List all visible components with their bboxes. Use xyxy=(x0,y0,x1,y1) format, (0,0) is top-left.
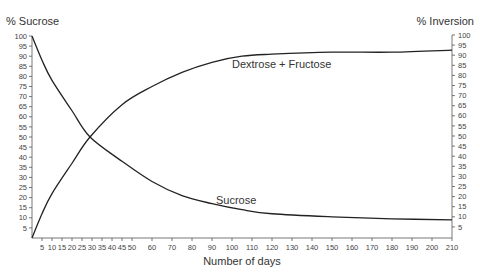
left-y-tick-label: 45 xyxy=(19,143,27,152)
x-tick-label: 100 xyxy=(226,243,239,252)
x-tick-label: 15 xyxy=(58,243,66,252)
x-tick-label: 190 xyxy=(406,243,419,252)
left-y-tick-label: 30 xyxy=(19,173,27,182)
left-y-tick-label: 25 xyxy=(19,183,27,192)
left-y-tick-label: 50 xyxy=(19,133,27,142)
x-axis-title: Number of days xyxy=(203,255,281,267)
x-tick-label: 160 xyxy=(346,243,359,252)
x-tick-label: 30 xyxy=(88,243,96,252)
right-y-tick-label: 85 xyxy=(458,61,466,70)
left-y-tick-label: 65 xyxy=(19,102,27,111)
x-tick-label: 80 xyxy=(188,243,196,252)
right-y-tick-label: 80 xyxy=(458,71,466,80)
x-tick-label: 40 xyxy=(108,243,116,252)
left-y-tick-label: 85 xyxy=(19,62,27,71)
left-y-tick-label: 90 xyxy=(19,52,27,61)
series-labels: Dextrose + FructoseSucrose xyxy=(216,58,331,205)
x-tick-label: 20 xyxy=(68,243,76,252)
left-y-tick-label: 20 xyxy=(19,193,27,202)
right-y-tick-label: 95 xyxy=(458,41,466,50)
right-y-tick-label: 40 xyxy=(458,152,466,161)
right-y-tick-label: 100 xyxy=(458,31,471,40)
x-tick-label: 5 xyxy=(40,243,44,252)
x-tick-label: 25 xyxy=(78,243,86,252)
right-y-tick-label: 5 xyxy=(458,223,462,232)
left-y-tick-label: 5 xyxy=(23,224,27,233)
x-tick-label: 50 xyxy=(128,243,136,252)
left-y-tick-label: 15 xyxy=(19,203,27,212)
x-tick-label: 90 xyxy=(208,243,216,252)
x-tick-label: 200 xyxy=(426,243,439,252)
right-y-tick-label: 15 xyxy=(458,202,466,211)
left-y-tick-label: 35 xyxy=(19,163,27,172)
right-y-tick-label: 65 xyxy=(458,101,466,110)
x-tick-label: 10 xyxy=(48,243,56,252)
right-y-tick-label: 35 xyxy=(458,162,466,171)
x-tick-label: 110 xyxy=(246,243,258,252)
right-y-tick-label: 25 xyxy=(458,182,466,191)
x-tick-label: 180 xyxy=(386,243,399,252)
x-tick-label: 140 xyxy=(306,243,319,252)
right-y-tick-label: 90 xyxy=(458,51,466,60)
x-tick-label: 45 xyxy=(118,243,126,252)
left-y-tick-label: 100 xyxy=(14,32,27,41)
left-y-tick-label: 10 xyxy=(19,213,27,222)
x-tick-label: 35 xyxy=(98,243,106,252)
chart: % Sucrose % Inversion 510152025303540455… xyxy=(0,0,480,279)
x-tick-label: 210 xyxy=(446,243,459,252)
right-y-tick-label: 70 xyxy=(458,91,466,100)
left-y-tick-label: 75 xyxy=(19,82,27,91)
right-y-tick-label: 10 xyxy=(458,212,466,221)
left-y-tick-label: 80 xyxy=(19,72,27,81)
right-y-tick-label: 50 xyxy=(458,132,466,141)
right-y-tick-label: 75 xyxy=(458,81,466,90)
dextrose-fructose-label: Dextrose + Fructose xyxy=(232,58,331,70)
right-y-tick-label: 55 xyxy=(458,122,466,131)
x-tick-label: 130 xyxy=(286,243,299,252)
right-y-tick-label: 20 xyxy=(458,192,466,201)
left-y-tick-label: 70 xyxy=(19,92,27,101)
x-tick-label: 120 xyxy=(266,243,279,252)
x-tick-label: 60 xyxy=(148,243,156,252)
x-tick-label: 170 xyxy=(366,243,379,252)
right-y-tick-label: 30 xyxy=(458,172,466,181)
right-y-tick-label: 45 xyxy=(458,142,466,151)
left-y-tick-label: 95 xyxy=(19,42,27,51)
left-y-tick-label: 55 xyxy=(19,123,27,132)
left-y-tick-label: 60 xyxy=(19,112,27,121)
left-y-tick-label: 40 xyxy=(19,153,27,162)
x-tick-label: 150 xyxy=(326,243,339,252)
right-y-tick-label: 60 xyxy=(458,111,466,120)
x-tick-label: 70 xyxy=(168,243,176,252)
right-axis-title: % Inversion xyxy=(417,15,474,27)
left-axis-title: % Sucrose xyxy=(6,15,59,27)
sucrose-label: Sucrose xyxy=(216,194,256,206)
